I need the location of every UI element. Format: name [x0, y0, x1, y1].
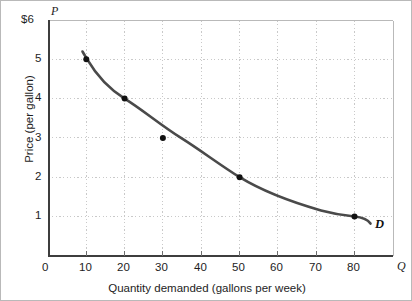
y-tick-label-4: 4 — [35, 91, 42, 103]
data-point-55-2 — [237, 174, 243, 180]
x-tick-label-30: 30 — [155, 261, 168, 273]
x-tick-label-20: 20 — [117, 261, 130, 273]
y-tick-label-1: 1 — [35, 209, 42, 221]
demand-curve — [83, 52, 371, 224]
y-axis-title: Price (per gallon) — [23, 39, 35, 199]
axis-lines — [48, 20, 393, 257]
demand-curve-label: D — [375, 217, 384, 232]
x-tick-label-50: 50 — [232, 261, 245, 273]
x-tick-label-60: 60 — [270, 261, 283, 273]
data-point-20-4 — [122, 96, 128, 102]
y-tick-label-3: 3 — [35, 131, 42, 143]
y-tick-label-6: $6 — [21, 13, 34, 25]
horizontal-gridlines — [49, 59, 394, 216]
x-tick-label-80: 80 — [347, 261, 360, 273]
demand-curve-figure: P Q $6 5 4 3 2 1 0 10 20 30 40 50 60 70 … — [0, 0, 412, 301]
chart-plot-area — [1, 1, 412, 301]
x-tick-label-10: 10 — [79, 261, 92, 273]
data-point-10-5 — [83, 56, 89, 62]
y-tick-label-2: 2 — [35, 170, 42, 182]
plot-frame — [49, 21, 394, 257]
vertical-gridlines — [86, 21, 354, 257]
y-axis-variable-label: P — [51, 4, 58, 19]
x-tick-label-40: 40 — [194, 261, 207, 273]
x-axis-title: Quantity demanded (gallons per week) — [1, 282, 412, 294]
y-tick-label-5: 5 — [35, 52, 42, 64]
x-tick-label-0: 0 — [42, 261, 49, 273]
data-point-35-3 — [160, 135, 166, 141]
x-tick-label-70: 70 — [309, 261, 322, 273]
x-axis-variable-label: Q — [397, 259, 406, 274]
data-point-80-1 — [352, 214, 358, 220]
